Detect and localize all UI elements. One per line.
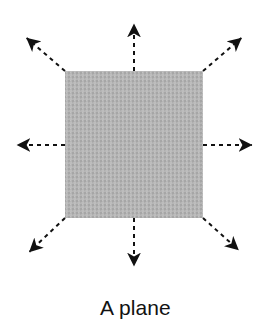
plane-square [65,71,203,218]
arrow-up-right [203,38,241,71]
figure-caption: A plane [0,295,271,321]
arrow-down-right [203,218,238,250]
arrow-up-left [27,38,65,71]
plane-diagram [0,0,271,332]
arrow-down-left [29,218,65,252]
figure-container: A plane [0,0,271,332]
